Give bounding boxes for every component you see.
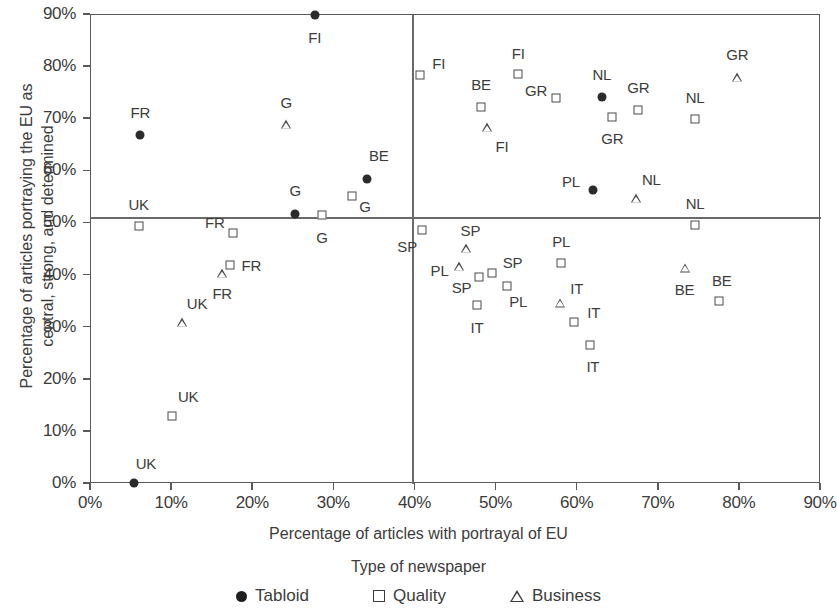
open-triangle-icon [510,590,524,602]
y-tick-label: 30% [0,318,76,335]
data-point-quality [691,115,700,124]
data-point-label: GR [601,131,623,146]
legend-item-quality: Quality [373,586,446,606]
data-point-label: SP [397,238,417,253]
data-point-quality [715,297,724,306]
data-point-label: G [289,183,300,198]
x-tick-label: 50% [456,494,536,511]
data-point-label: BE [369,147,389,162]
data-point-quality [475,272,484,281]
x-tick-mark [170,483,172,490]
data-point-label: FR [212,285,232,300]
data-point-label: PL [431,262,449,277]
data-point-label: NL [686,195,705,210]
data-point-label: IT [586,358,599,373]
data-point-label: SP [452,280,472,295]
data-point-quality [502,282,511,291]
data-point-label: IT [470,320,483,335]
data-point-business [732,73,742,82]
data-point-label: G [359,198,370,213]
data-point-quality [514,70,523,79]
x-axis-title: Percentage of articles with portrayal of… [0,525,837,543]
data-point-label: G [316,229,327,244]
y-tick-label: 80% [0,57,76,74]
y-tick-label: 70% [0,109,76,126]
y-tick-mark [83,13,90,15]
x-tick-label: 70% [618,494,698,511]
data-point-label: UK [178,389,198,404]
data-point-quality [416,70,425,79]
data-point-label: BE [471,77,491,92]
y-tick-mark [83,117,90,119]
data-point-label: UK [128,197,148,212]
y-tick-mark [83,170,90,172]
data-point-business [461,243,471,252]
data-point-label: BE [712,272,732,287]
data-point-label: GR [726,47,748,62]
data-point-quality [228,229,237,238]
data-point-label: FR [242,257,262,272]
data-point-business [680,263,690,272]
data-point-label: PL [509,294,527,309]
data-point-label: FI [432,55,445,70]
data-point-quality [488,268,497,277]
data-point-quality [134,222,143,231]
legend: Tabloid Quality Business [0,586,837,606]
legend-label-tabloid: Tabloid [255,586,309,606]
x-tick-label: 60% [537,494,617,511]
y-tick-label: 10% [0,422,76,439]
legend-item-business: Business [510,586,601,606]
y-tick-mark [83,378,90,380]
data-point-label: FI [308,30,321,45]
data-point-tabloid [597,92,606,101]
data-point-label: NL [686,90,705,105]
data-point-quality [691,220,700,229]
open-square-icon [373,590,385,602]
data-point-tabloid [129,479,138,488]
x-tick-mark [89,483,91,490]
data-point-label: GR [627,80,649,95]
legend-title: Type of newspaper [0,558,837,576]
data-point-business [281,119,291,128]
data-point-business [217,268,227,277]
data-point-quality [570,317,579,326]
y-tick-mark [83,65,90,67]
data-point-tabloid [136,131,145,140]
data-point-label: IT [570,281,583,296]
data-point-label: FI [496,139,509,154]
data-point-business [454,262,464,271]
data-point-label: IT [587,305,600,320]
x-tick-mark [251,483,253,490]
data-point-label: GR [525,82,547,97]
data-point-label: G [281,94,292,109]
data-point-business [631,194,641,203]
data-point-quality [347,191,356,200]
y-tick-label: 20% [0,370,76,387]
data-point-business [555,298,565,307]
x-tick-label: 20% [212,494,292,511]
x-tick-label: 80% [699,494,779,511]
x-tick-label: 90% [780,494,837,511]
data-point-tabloid [363,174,372,183]
data-point-label: FR [130,104,150,119]
data-point-tabloid [291,209,300,218]
data-point-label: UK [136,456,156,471]
data-point-tabloid [310,11,319,20]
y-tick-label: 90% [0,5,76,22]
legend-label-quality: Quality [393,586,446,606]
y-tick-label: 40% [0,266,76,283]
x-tick-mark [414,483,416,490]
x-tick-mark [333,483,335,490]
data-point-quality [167,411,176,420]
data-point-quality [634,105,643,114]
data-point-label: PL [552,234,570,249]
data-point-quality [317,210,326,219]
data-point-label: SP [461,222,481,237]
x-tick-label: 30% [293,494,373,511]
y-tick-label: 50% [0,213,76,230]
x-tick-mark [657,483,659,490]
data-point-quality [417,225,426,234]
data-point-quality [557,258,566,267]
data-point-label: FI [512,45,525,60]
data-point-business [482,123,492,132]
